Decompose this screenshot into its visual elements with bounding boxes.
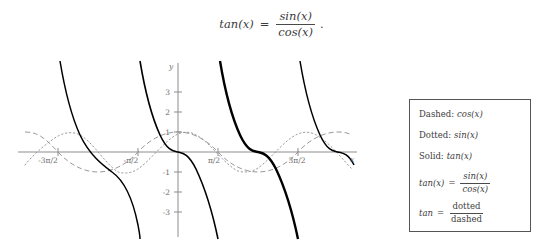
legend-func-cos: cos(x) bbox=[457, 109, 483, 119]
legend-func-tan: tan(x) bbox=[447, 151, 472, 161]
sin-curve bbox=[25, 132, 352, 173]
display-formula: tan(x) = sin(x) cos(x) . bbox=[0, 10, 543, 39]
legend-style-dotted: Dotted: bbox=[419, 130, 451, 140]
tan-branch-centre bbox=[220, 61, 298, 239]
legend-equation-verbal: tan = dotted dashed bbox=[419, 202, 530, 224]
legend-style-dashed: Dashed: bbox=[419, 109, 454, 119]
x-tick-label-neg-pi-2: -π/2 bbox=[124, 156, 139, 165]
formula-denominator: cos(x) bbox=[275, 25, 316, 39]
x-axis-label: x bbox=[350, 155, 355, 164]
legend-eq1-equals: = bbox=[448, 178, 455, 188]
legend-row-dashed: Dashed:cos(x) bbox=[419, 109, 530, 119]
x-tick-label-neg-3pi-2: -3π/2 bbox=[38, 156, 58, 165]
tan-branch-left-outer bbox=[60, 61, 140, 239]
legend-row-dotted: Dotted:sin(x) bbox=[419, 130, 530, 140]
legend-eq1-lhs: tan(x) bbox=[419, 178, 444, 188]
y-axis-label: y bbox=[168, 62, 174, 71]
legend-equation-symbolic: tan(x) = sin(x) cos(x) bbox=[419, 172, 530, 194]
y-tick-label-2: 2 bbox=[165, 108, 170, 117]
y-tick-label-3: 3 bbox=[165, 88, 170, 97]
legend-eq2-numerator: dotted bbox=[450, 202, 484, 214]
y-tick-label-neg3: -3 bbox=[163, 208, 171, 217]
legend-row-solid: Solid:tan(x) bbox=[419, 151, 530, 161]
display-formula-row: tan(x) = sin(x) cos(x) . bbox=[219, 10, 323, 39]
legend-panel: Dashed:cos(x) Dotted:sin(x) Solid:tan(x)… bbox=[409, 99, 531, 232]
legend-eq1-numerator: sin(x) bbox=[460, 172, 490, 184]
y-tick-label-neg2: -2 bbox=[163, 188, 171, 197]
formula-numerator: sin(x) bbox=[276, 10, 314, 25]
formula-equals: = bbox=[258, 17, 272, 31]
x-tick-label-3pi-2: 3π/2 bbox=[289, 156, 306, 165]
formula-lhs: tan(x) bbox=[219, 17, 253, 31]
plot-canvas: 3 2 1 -1 -2 -3 -3π/2 -π/2 π/2 3π/2 y x bbox=[0, 55, 380, 240]
trig-plot: 3 2 1 -1 -2 -3 -3π/2 -π/2 π/2 3π/2 y x bbox=[0, 55, 380, 240]
legend-eq1-fraction: sin(x) cos(x) bbox=[460, 172, 492, 194]
legend-eq2-equals: = bbox=[437, 208, 444, 218]
y-tick-label-neg1: -1 bbox=[163, 168, 170, 177]
x-tick-label-pi-2: π/2 bbox=[208, 156, 220, 165]
legend-eq2-denominator: dashed bbox=[448, 214, 485, 225]
y-tick-label-1: 1 bbox=[165, 128, 170, 137]
legend-style-solid: Solid: bbox=[419, 151, 444, 161]
formula-fraction: sin(x) cos(x) bbox=[275, 10, 316, 39]
legend-func-sin: sin(x) bbox=[454, 130, 478, 140]
formula-period: . bbox=[320, 17, 324, 31]
legend-eq2-fraction: dotted dashed bbox=[448, 202, 485, 224]
legend-eq1-denominator: cos(x) bbox=[460, 184, 492, 195]
legend-eq2-lhs: tan bbox=[419, 208, 433, 218]
tan-branch-right-outer bbox=[300, 61, 354, 165]
